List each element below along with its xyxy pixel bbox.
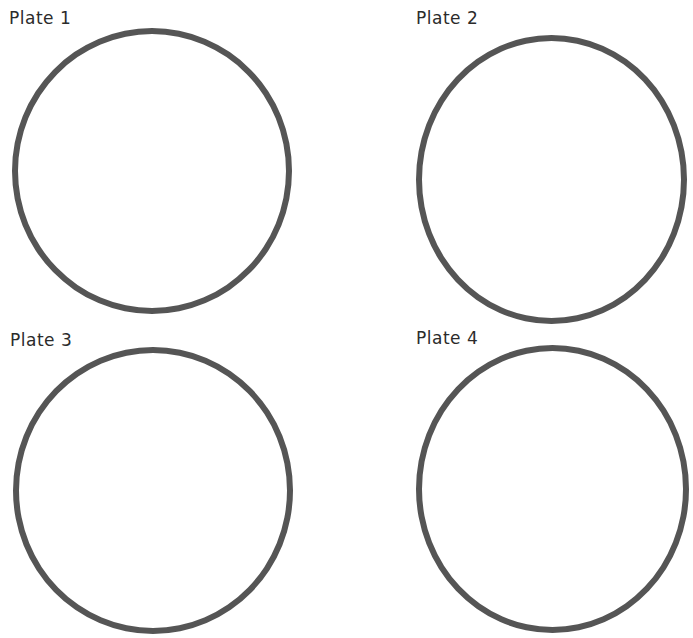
plate-4-circle — [416, 345, 689, 633]
plate-2-circle — [416, 35, 687, 324]
plate-4-label: Plate 4 — [416, 330, 478, 347]
plate-3-circle — [13, 347, 293, 634]
plate-1-circle — [12, 28, 292, 314]
plate-2-label: Plate 2 — [416, 10, 478, 27]
plate-3-label: Plate 3 — [10, 332, 72, 349]
plate-1-label: Plate 1 — [9, 10, 71, 27]
